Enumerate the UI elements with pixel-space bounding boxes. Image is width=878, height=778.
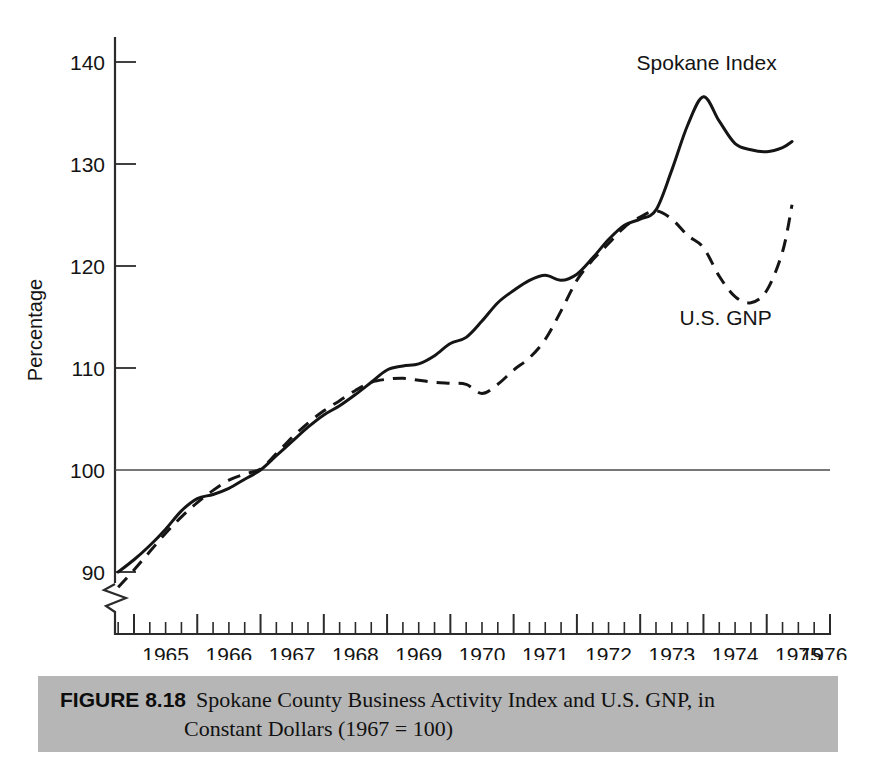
y-axis-ticks bbox=[115, 62, 136, 572]
x-axis-ticks bbox=[118, 614, 830, 634]
x-tick-label-1971: 1971 bbox=[522, 643, 569, 660]
y-axis-tick-labels: 140 130 120 110 100 90 bbox=[70, 51, 105, 584]
x-tick-label-1967: 1967 bbox=[269, 643, 316, 660]
series-annotations: Spokane IndexU.S. GNP bbox=[637, 51, 778, 329]
series-annotation-label: U.S. GNP bbox=[680, 306, 772, 329]
x-tick-label-1973: 1973 bbox=[648, 643, 695, 660]
x-tick-label-1976: 1976 bbox=[801, 643, 848, 660]
x-tick-label-1965: 1965 bbox=[142, 643, 189, 660]
y-tick-label-140: 140 bbox=[70, 51, 105, 74]
x-axis-tick-labels: 1965196619671968196919701971197219731974… bbox=[142, 643, 847, 660]
figure-caption-bar: FIGURE 8.18Spokane County Business Activ… bbox=[38, 676, 838, 752]
x-tick-label-1972: 1972 bbox=[585, 643, 632, 660]
y-tick-label-110: 110 bbox=[72, 357, 105, 380]
caption-line-1: FIGURE 8.18Spokane County Business Activ… bbox=[60, 685, 828, 714]
caption-line-1-text: Spokane County Business Activity Index a… bbox=[196, 687, 715, 712]
x-tick-label-1968: 1968 bbox=[332, 643, 379, 660]
caption-line-2: Constant Dollars (1967 = 100) bbox=[60, 714, 828, 743]
y-axis-break-icon bbox=[104, 584, 126, 612]
x-tick-label-1966: 1966 bbox=[206, 643, 253, 660]
line-chart-svg: 140 130 120 110 100 90 Percentage 196519… bbox=[0, 0, 878, 660]
figure-caption-text: FIGURE 8.18Spokane County Business Activ… bbox=[60, 685, 828, 743]
y-axis-title: Percentage bbox=[24, 279, 46, 381]
figure-container: 140 130 120 110 100 90 Percentage 196519… bbox=[0, 0, 878, 778]
caption-figure-number: FIGURE 8.18 bbox=[60, 688, 186, 711]
series-line-us-gnp bbox=[118, 205, 792, 588]
x-tick-label-1970: 1970 bbox=[459, 643, 506, 660]
x-tick-label-1974: 1974 bbox=[712, 643, 759, 660]
x-axis-line bbox=[115, 612, 830, 634]
series-annotation-label: Spokane Index bbox=[637, 51, 778, 74]
series-line-spokane-index bbox=[118, 97, 792, 572]
chart-plot-area: 140 130 120 110 100 90 Percentage 196519… bbox=[0, 0, 878, 660]
y-tick-label-120: 120 bbox=[70, 255, 105, 278]
x-tick-label-1969: 1969 bbox=[395, 643, 442, 660]
y-tick-label-90: 90 bbox=[82, 561, 105, 584]
y-tick-label-130: 130 bbox=[70, 153, 105, 176]
y-tick-label-100: 100 bbox=[70, 459, 105, 482]
